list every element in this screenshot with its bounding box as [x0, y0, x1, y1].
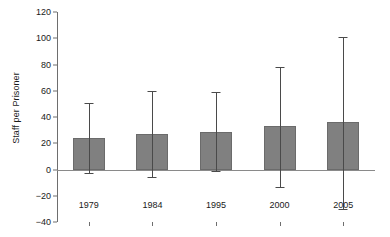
y-tick-label: 20: [25, 138, 51, 148]
y-tick-label: 100: [25, 33, 51, 43]
y-tick-label: −20: [25, 191, 51, 201]
error-bar-cap: [84, 173, 93, 174]
error-bar-stem: [280, 67, 281, 186]
y-tick-mark: [53, 38, 57, 39]
x-tick-label: 2000: [270, 200, 290, 210]
error-bar-cap: [275, 67, 284, 68]
error-bar-cap: [212, 92, 221, 93]
x-tick-label: 2005: [333, 200, 353, 210]
x-tick-label: 1995: [206, 200, 226, 210]
y-tick-label: 80: [25, 60, 51, 70]
error-bar-stem: [152, 91, 153, 178]
y-tick-mark: [53, 90, 57, 91]
y-tick-label: 120: [25, 7, 51, 17]
y-tick-mark: [53, 143, 57, 144]
chart-canvas: Staff per Prisoner 120100806040200−20−40…: [0, 0, 390, 237]
y-tick-mark: [53, 169, 57, 170]
x-tick-mark: [152, 222, 153, 226]
y-tick-mark: [53, 12, 57, 13]
y-tick-label: −40: [25, 217, 51, 227]
y-tick-label: 40: [25, 112, 51, 122]
error-bar-cap: [148, 177, 157, 178]
y-tick-mark: [53, 195, 57, 196]
x-tick-mark: [216, 222, 217, 226]
y-tick-label: 60: [25, 86, 51, 96]
error-bar-cap: [339, 37, 348, 38]
x-tick-mark: [280, 222, 281, 226]
x-tick-label: 1979: [79, 200, 99, 210]
x-tick-mark: [343, 222, 344, 226]
error-bar-cap: [84, 103, 93, 104]
error-bar-stem: [343, 37, 344, 209]
error-bar-cap: [212, 171, 221, 172]
y-tick-label: 0: [25, 165, 51, 175]
error-bar-stem: [216, 92, 217, 171]
y-tick-mark: [53, 64, 57, 65]
x-tick-label: 1984: [142, 200, 162, 210]
y-axis-title: Staff per Prisoner: [11, 48, 21, 168]
y-tick-mark: [53, 117, 57, 118]
x-tick-mark: [89, 222, 90, 226]
error-bar-cap: [148, 91, 157, 92]
error-bar-cap: [275, 187, 284, 188]
y-tick-mark: [53, 222, 57, 223]
y-axis-line: [57, 12, 58, 222]
error-bar-stem: [89, 103, 90, 174]
